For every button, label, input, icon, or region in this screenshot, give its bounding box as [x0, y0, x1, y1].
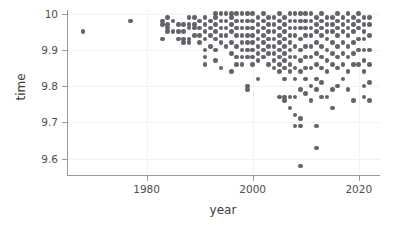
data-point — [176, 37, 181, 42]
data-point — [203, 22, 208, 27]
data-point — [282, 95, 287, 100]
x-tick-mark — [253, 176, 254, 181]
data-point — [261, 55, 266, 60]
data-point — [309, 55, 314, 60]
y-tick-mark — [62, 14, 67, 15]
data-point — [298, 48, 303, 53]
data-point — [266, 15, 271, 20]
data-point — [277, 26, 282, 31]
data-point — [314, 87, 319, 92]
x-axis-spine — [67, 175, 380, 176]
data-point — [298, 124, 303, 129]
data-point — [356, 26, 361, 31]
data-point — [208, 33, 213, 38]
data-point — [293, 26, 298, 31]
data-point — [203, 29, 208, 34]
data-point — [266, 62, 271, 67]
data-point — [181, 40, 186, 45]
data-point — [203, 15, 208, 20]
data-point — [277, 62, 282, 67]
data-point — [261, 48, 266, 53]
data-point — [346, 87, 351, 92]
data-point — [245, 19, 250, 24]
x-tick-label: 2020 — [345, 184, 372, 195]
data-point — [330, 15, 335, 20]
data-point — [234, 44, 239, 49]
data-point — [314, 15, 319, 20]
data-point — [346, 19, 351, 24]
y-axis-label: time — [14, 42, 28, 132]
data-point — [266, 37, 271, 42]
data-point — [219, 19, 224, 24]
data-point — [272, 22, 277, 27]
data-point — [219, 11, 224, 16]
gridline-vertical — [147, 10, 148, 175]
data-point — [330, 87, 335, 92]
data-point — [298, 11, 303, 16]
data-point — [208, 26, 213, 31]
data-point — [165, 29, 170, 34]
data-point — [293, 95, 298, 100]
data-point — [187, 40, 192, 45]
data-point — [309, 98, 314, 103]
data-point — [203, 62, 208, 67]
data-point — [325, 29, 330, 34]
data-point — [288, 95, 293, 100]
data-point — [245, 33, 250, 38]
data-point — [319, 26, 324, 31]
data-point — [245, 40, 250, 45]
data-point — [319, 95, 324, 100]
data-point — [325, 58, 330, 63]
data-point — [224, 19, 229, 24]
data-point — [367, 62, 372, 67]
y-tick-label: 9.8 — [41, 81, 58, 92]
data-point — [303, 44, 308, 49]
data-point — [282, 44, 287, 49]
data-point — [314, 62, 319, 67]
data-point — [282, 66, 287, 71]
data-point — [303, 91, 308, 96]
data-point — [197, 19, 202, 24]
data-point — [362, 69, 367, 74]
data-point — [256, 77, 261, 82]
data-point — [234, 26, 239, 31]
data-point — [197, 40, 202, 45]
data-point — [351, 51, 356, 56]
y-tick-label: 9.6 — [41, 153, 58, 164]
data-point — [240, 26, 245, 31]
data-point — [240, 33, 245, 38]
data-point — [240, 40, 245, 45]
data-point — [309, 84, 314, 89]
data-point — [240, 19, 245, 24]
data-point — [330, 22, 335, 27]
data-point — [181, 22, 186, 27]
plot-area — [67, 10, 380, 175]
data-point — [314, 22, 319, 27]
data-point — [298, 19, 303, 24]
data-point — [356, 48, 361, 53]
data-point — [224, 44, 229, 49]
data-point — [298, 116, 303, 121]
data-point — [256, 29, 261, 34]
data-point — [272, 37, 277, 42]
data-point — [160, 19, 165, 24]
data-point — [250, 19, 255, 24]
data-point — [288, 55, 293, 60]
data-point — [245, 48, 250, 53]
data-point — [266, 29, 271, 34]
data-point — [362, 29, 367, 34]
data-point — [277, 19, 282, 24]
data-point — [303, 11, 308, 16]
data-point — [325, 48, 330, 53]
data-point — [362, 15, 367, 20]
data-point — [325, 22, 330, 27]
data-point — [341, 22, 346, 27]
data-point — [250, 62, 255, 67]
data-point — [288, 40, 293, 45]
data-point — [351, 62, 356, 67]
data-point — [341, 29, 346, 34]
data-point — [335, 44, 340, 49]
data-point — [81, 29, 86, 34]
data-point — [346, 69, 351, 74]
gridline-horizontal — [67, 122, 380, 123]
